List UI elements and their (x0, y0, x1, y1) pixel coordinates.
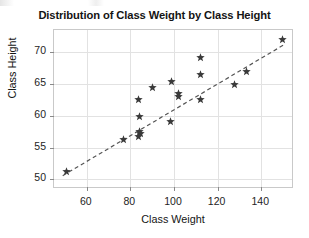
x-tick-label: 60 (80, 195, 92, 207)
chart-figure: Distribution of Class Weight by Class He… (0, 0, 309, 238)
x-tick-mark (218, 187, 219, 191)
x-tick-mark (87, 187, 88, 191)
x-tick-label: 120 (208, 195, 226, 207)
y-tick-label: 70 (24, 44, 46, 56)
y-tick-mark (50, 148, 54, 149)
y-tick-mark (50, 179, 54, 180)
x-tick-label: 100 (164, 195, 182, 207)
x-tick-label: 80 (124, 195, 136, 207)
trendline (54, 30, 292, 187)
x-tick-mark (130, 187, 131, 191)
y-tick-label: 65 (24, 76, 46, 88)
y-axis-title: Class Height (6, 3, 18, 133)
y-tick-label: 60 (24, 108, 46, 120)
plot-canvas (54, 30, 292, 187)
plot-area (53, 29, 293, 188)
x-tick-mark (261, 187, 262, 191)
scan-artifact (0, 0, 309, 6)
y-tick-mark (50, 52, 54, 53)
chart-title: Distribution of Class Weight by Class He… (0, 9, 309, 21)
x-axis-title: Class Weight (53, 213, 293, 225)
y-tick-mark (50, 116, 54, 117)
x-tick-mark (174, 187, 175, 191)
trendline-segment (63, 44, 286, 176)
y-tick-mark (50, 84, 54, 85)
x-tick-label: 140 (252, 195, 270, 207)
y-tick-label: 55 (24, 140, 46, 152)
y-tick-label: 50 (24, 171, 46, 183)
